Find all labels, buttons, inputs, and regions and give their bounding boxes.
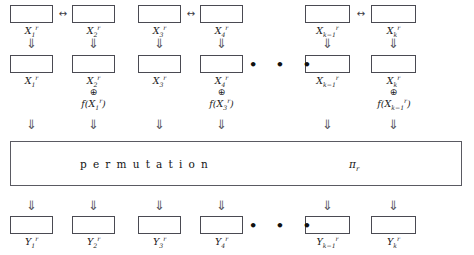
label-yk: Ykr: [371, 237, 416, 247]
label-y3: Y3r: [138, 237, 181, 247]
feistel-function-f3: f(X3r): [190, 99, 253, 109]
down-arrow-icon-to-perm-6: ⇓: [371, 118, 416, 131]
down-arrow-icon-to-out-6: ⇓: [371, 199, 416, 212]
label-y1: Y1r: [10, 237, 53, 247]
label-x2-mixed: X2r: [72, 76, 115, 86]
output-box-y3: [138, 216, 181, 234]
xor-icon-2: ⊕: [200, 88, 243, 97]
xor-icon-1: ⊕: [72, 88, 115, 97]
register-box-x3: [138, 5, 181, 23]
register-box-x2: [72, 5, 115, 23]
label-x1-mixed-text: X1r: [25, 75, 39, 86]
down-arrow-icon-x4: ⇓: [200, 37, 243, 50]
mixed-box-x2: [72, 55, 115, 73]
label-x3-mixed: X3r: [138, 76, 181, 86]
label-xk-mixed-text: Xkr: [387, 75, 400, 86]
swap-arrow-icon-3: ↔: [352, 9, 370, 19]
permutation-label: permutation: [80, 158, 214, 170]
xor-icon-3: ⊕: [371, 88, 416, 97]
label-y4-text: Y4r: [215, 236, 228, 247]
label-x4-text: X4r: [215, 25, 229, 36]
feistel-function-f1-text: f(X1r): [81, 98, 106, 109]
label-x4: X4r: [200, 26, 243, 36]
label-y2: Y2r: [72, 237, 115, 247]
permutation-symbol: πr: [349, 158, 359, 170]
output-box-yk: [371, 216, 416, 234]
label-xk-mixed: Xkr: [371, 76, 416, 86]
mixed-box-x1: [10, 55, 53, 73]
down-arrow-icon-xk: ⇓: [371, 37, 416, 50]
swap-arrow-icon-1: ↔: [55, 9, 71, 19]
label-x3-text: X3r: [153, 25, 167, 36]
down-arrow-icon-to-out-1: ⇓: [10, 199, 53, 212]
label-y2-text: Y2r: [87, 236, 100, 247]
down-arrow-icon-to-perm-5: ⇓: [305, 118, 350, 131]
register-box-x4: [200, 5, 243, 23]
feistel-function-f1: f(X1r): [62, 99, 125, 109]
down-arrow-icon-to-perm-2: ⇓: [72, 118, 115, 131]
label-xk-text: Xkr: [387, 25, 400, 36]
down-arrow-icon-to-out-2: ⇓: [72, 199, 115, 212]
feistel-function-f3-text: f(X3r): [209, 98, 234, 109]
label-x1: X1r: [10, 26, 53, 36]
label-x3: X3r: [138, 26, 181, 36]
label-xkm1-text: Xk−1r: [316, 25, 339, 36]
down-arrow-icon-x1: ⇓: [10, 37, 53, 50]
mixed-box-x4: [200, 55, 243, 73]
label-ykm1: Yk−1r: [305, 237, 350, 247]
label-y3-text: Y3r: [153, 236, 166, 247]
down-arrow-icon-to-out-4: ⇓: [200, 199, 243, 212]
label-x1-text: X1r: [25, 25, 39, 36]
permutation-round-diagram: ↔ ↔ ↔ X1r X2r X3r X4r Xk−1r Xkr ⇓ ⇓ ⇓ ⇓ …: [0, 0, 474, 255]
register-box-xkm1: [305, 5, 350, 23]
feistel-function-f5-text: f(Xk−1r): [377, 98, 411, 109]
mixed-box-xk: [371, 55, 416, 73]
label-x1-mixed: X1r: [10, 76, 53, 86]
label-x4-mixed: X4r: [200, 76, 243, 86]
permutation-box: [10, 141, 462, 186]
feistel-function-f5: f(Xk−1r): [358, 99, 430, 109]
ellipsis-middle: • • •: [249, 58, 318, 71]
label-x4-mixed-text: X4r: [215, 75, 229, 86]
output-box-y1: [10, 216, 53, 234]
label-x2-mixed-text: X2r: [87, 75, 101, 86]
label-x3-mixed-text: X3r: [153, 75, 167, 86]
down-arrow-icon-to-perm-4: ⇓: [200, 118, 243, 131]
label-xk: Xkr: [371, 26, 416, 36]
down-arrow-icon-x2: ⇓: [72, 37, 115, 50]
output-box-y4: [200, 216, 243, 234]
label-xkm1-mixed: Xk−1r: [305, 76, 350, 86]
down-arrow-icon-to-out-5: ⇓: [305, 199, 350, 212]
label-yk-text: Ykr: [387, 236, 400, 247]
down-arrow-icon-to-perm-3: ⇓: [138, 118, 181, 131]
register-box-x1: [10, 5, 53, 23]
ellipsis-bottom: • • •: [249, 219, 318, 232]
output-box-y2: [72, 216, 115, 234]
label-xkm1: Xk−1r: [305, 26, 350, 36]
label-xkm1-mixed-text: Xk−1r: [316, 75, 339, 86]
swap-arrow-icon-2: ↔: [183, 9, 199, 19]
down-arrow-icon-x3: ⇓: [138, 37, 181, 50]
down-arrow-icon-to-perm-1: ⇓: [10, 118, 53, 131]
permutation-symbol-text: πr: [349, 158, 359, 170]
register-box-xk: [371, 5, 416, 23]
label-y4: Y4r: [200, 237, 243, 247]
down-arrow-icon-xkm1: ⇓: [305, 37, 350, 50]
label-x2-text: X2r: [87, 25, 101, 36]
mixed-box-x3: [138, 55, 181, 73]
label-x2: X2r: [72, 26, 115, 36]
label-ykm1-text: Yk−1r: [316, 236, 338, 247]
label-y1-text: Y1r: [25, 236, 38, 247]
down-arrow-icon-to-out-3: ⇓: [138, 199, 181, 212]
